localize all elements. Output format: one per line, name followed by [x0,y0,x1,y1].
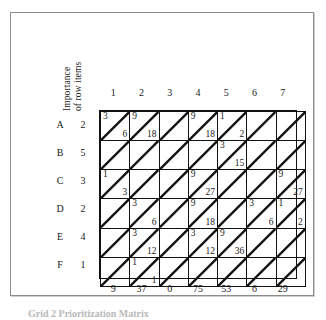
column-header-3: 3 [156,87,184,103]
matrix-cell-C5[interactable] [218,170,247,199]
matrix-cell-E2[interactable]: 312 [130,228,159,257]
matrix-cell-E4[interactable]: 312 [188,228,217,257]
matrix-cell-B4[interactable] [188,141,217,170]
column-header-6: 6 [240,87,268,103]
matrix-cell-D3[interactable] [159,199,188,228]
matrix-cell-C4[interactable]: 927 [188,170,217,199]
matrix-cell-B1[interactable] [101,141,130,170]
cell-rating-A4: 9 [191,111,196,122]
column-total-7: 29 [269,283,297,299]
row-importance-E: 4 [71,231,95,242]
cell-weighted-A4: 18 [206,129,216,140]
cell-rating-A1: 3 [103,111,108,122]
cell-diagonal-icon [160,229,188,257]
cell-diagonal-icon [160,199,188,227]
matrix-cell-A1[interactable]: 36 [101,112,130,141]
column-total-3: 0 [156,283,184,299]
matrix-cell-C6[interactable] [247,170,276,199]
cell-rating-C1: 1 [103,169,108,180]
matrix-cell-A4[interactable]: 918 [188,112,217,141]
figure-frame: Importance of row items 1234567 A2B5C3D2… [10,12,314,296]
matrix-cell-A5[interactable]: 12 [218,112,247,141]
cell-diagonal-icon [277,141,305,169]
row-header-A: A2 [49,110,97,138]
matrix-cell-E1[interactable] [101,228,130,257]
cell-rating-A5: 1 [220,111,225,122]
matrix-cell-C2[interactable] [130,170,159,199]
column-total-1: 9 [99,283,127,299]
matrix-cell-D5[interactable] [218,199,247,228]
cell-diagonal-icon [247,229,275,257]
cell-weighted-D2: 6 [152,217,157,228]
cell-weighted-D7: 2 [298,217,303,228]
matrix-cell-C3[interactable] [159,170,188,199]
row-importance-axis-label-line1: Importance [62,33,73,111]
cell-diagonal-icon [189,141,217,169]
matrix-cell-D2[interactable]: 36 [130,199,159,228]
cell-diagonal-icon [218,170,246,198]
row-label-A: A [49,119,71,130]
matrix-cell-B7[interactable] [276,141,305,170]
cell-rating-F2: 1 [132,257,137,268]
row-header-D: D2 [49,194,97,222]
cell-diagonal-icon [101,229,129,257]
column-header-4: 4 [184,87,212,103]
cell-rating-A2: 9 [132,111,137,122]
row-importance-axis-label-line2: of row items [73,33,84,111]
matrix-table: 3691891812315139279273691836123123129361… [100,111,306,287]
row-label-B: B [49,147,71,158]
row-header-E: E4 [49,223,97,251]
matrix-cell-C7[interactable]: 927 [276,170,305,199]
matrix-cell-B2[interactable] [130,141,159,170]
cell-diagonal-icon [277,112,305,140]
matrix-cell-E7[interactable] [276,228,305,257]
matrix-cell-E6[interactable] [247,228,276,257]
matrix-cell-A6[interactable] [247,112,276,141]
row-importance-axis-label: Importance of row items [62,0,92,33]
column-total-4: 75 [184,283,212,299]
matrix-cell-A2[interactable]: 918 [130,112,159,141]
cell-diagonal-icon [130,170,158,198]
cell-weighted-C1: 3 [123,187,128,198]
matrix-cell-B6[interactable] [247,141,276,170]
cell-weighted-D4: 18 [206,217,216,228]
cell-diagonal-icon [247,112,275,140]
column-header-1: 1 [99,87,127,103]
row-label-F: F [49,259,71,270]
row-label-D: D [49,203,71,214]
figure-caption: Grid 2 Prioritization Matrix [28,308,308,320]
matrix-cell-D6[interactable]: 36 [247,199,276,228]
row-header-B: B5 [49,138,97,166]
matrix-row-D: 369183612 [101,199,306,228]
matrix-cell-D1[interactable] [101,199,130,228]
matrix-cell-A3[interactable] [159,112,188,141]
column-header-5: 5 [212,87,240,103]
cell-diagonal-icon [101,141,129,169]
cell-diagonal-icon [101,258,129,286]
cell-rating-E2: 3 [132,228,137,239]
cell-diagonal-icon [247,141,275,169]
cell-diagonal-icon [247,170,275,198]
matrix-cell-B5[interactable]: 315 [218,141,247,170]
matrix-cell-C1[interactable]: 13 [101,170,130,199]
cell-rating-E4: 3 [191,228,196,239]
row-label-E: E [49,231,71,242]
row-header-C: C3 [49,166,97,194]
matrix-cell-A7[interactable] [276,112,305,141]
matrix-cell-D4[interactable]: 918 [188,199,217,228]
matrix-cell-E5[interactable]: 936 [218,228,247,257]
row-header-F: F1 [49,251,97,279]
column-header-7: 7 [269,87,297,103]
cell-diagonal-icon [277,258,305,286]
row-label-C: C [49,175,71,186]
cell-weighted-D6: 6 [269,217,274,228]
matrix-cell-D7[interactable]: 12 [276,199,305,228]
matrix-cell-B3[interactable] [159,141,188,170]
cell-rating-D6: 3 [249,198,254,209]
row-importance-C: 3 [71,175,95,186]
cell-rating-D2: 3 [132,198,137,209]
cell-diagonal-icon [101,199,129,227]
matrix-cell-E3[interactable] [159,228,188,257]
cell-weighted-E2: 12 [147,246,157,257]
row-importance-A: 2 [71,119,95,130]
